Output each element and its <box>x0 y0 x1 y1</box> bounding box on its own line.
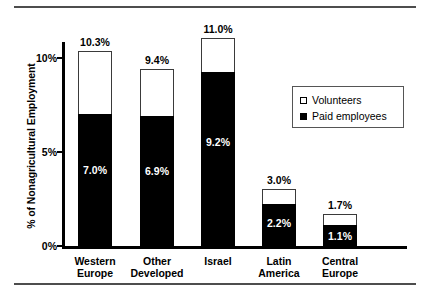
legend-item-paid-employees: Paid employees <box>300 108 403 124</box>
y-axis-line <box>62 42 65 249</box>
paid-value-label: 7.0% <box>79 165 111 176</box>
bar-other-developed: 6.9% <box>140 69 174 246</box>
bar-israel: 9.2% <box>201 38 235 246</box>
x-axis-line <box>62 246 407 249</box>
paid-value-label: 1.1% <box>324 231 356 242</box>
total-value-label-western-europe: 10.3% <box>70 37 120 48</box>
total-value-label-other-developed: 9.4% <box>132 55 182 66</box>
bar-western-europe: 7.0% <box>78 51 112 246</box>
x-tick-label-line-2: Europe <box>305 268 375 280</box>
paid-value-label: 9.2% <box>202 137 234 148</box>
x-tick-label-central-europe: Central Europe <box>305 256 375 279</box>
bar-central-europe: 1.1% <box>323 214 357 246</box>
legend-label-volunteers: Volunteers <box>312 95 362 106</box>
chart-figure: % of Nonagricultural Employment 10% 5% 0… <box>0 0 430 293</box>
y-tick-mark-5 <box>57 151 64 153</box>
legend-item-volunteers: Volunteers <box>300 92 403 108</box>
paid-value-label: 6.9% <box>141 166 173 177</box>
x-tick-label-line-1: Israel <box>183 256 253 268</box>
bar-segment-paid: 2.2% <box>262 204 296 246</box>
legend-label-paid-employees: Paid employees <box>312 111 387 122</box>
open-square-icon <box>300 97 307 104</box>
bar-segment-paid: 1.1% <box>323 225 357 246</box>
x-tick-label-line-2: Developed <box>117 268 197 280</box>
bar-segment-paid: 6.9% <box>140 116 174 246</box>
filled-square-icon <box>300 113 307 120</box>
y-tick-mark-10 <box>57 57 64 59</box>
x-tick-label-israel: Israel <box>183 256 253 268</box>
legend: Volunteers Paid employees <box>292 86 404 128</box>
plot-area: 10% 5% 0% 7.0% 10.3% 6.9% 9.4% <box>0 0 430 293</box>
y-tick-mark-0 <box>57 245 64 247</box>
total-value-label-latin-america: 3.0% <box>254 175 304 186</box>
bar-segment-paid: 7.0% <box>78 114 112 246</box>
bar-latin-america: 2.2% <box>262 189 296 246</box>
paid-value-label: 2.2% <box>263 218 295 229</box>
x-tick-label-line-2: America <box>244 268 314 280</box>
total-value-label-central-europe: 1.7% <box>315 200 365 211</box>
x-tick-label-line-1: Central <box>305 256 375 268</box>
total-value-label-israel: 11.0% <box>193 24 243 35</box>
bar-segment-paid: 9.2% <box>201 72 235 246</box>
x-tick-label-latin-america: Latin America <box>244 256 314 279</box>
x-tick-label-line-1: Latin <box>244 256 314 268</box>
